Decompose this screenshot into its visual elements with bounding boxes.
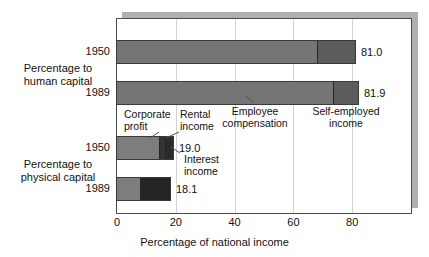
- value-label-human-1950: 81.0: [361, 46, 382, 58]
- xtick-20: 20: [161, 216, 191, 228]
- xtick-0: 0: [102, 216, 132, 228]
- annotation-employee-compensation: Employee compensation: [222, 105, 288, 129]
- segment-self-employed-income: [317, 41, 355, 63]
- annotation-self-employed-income-line1: Self-employed: [310, 105, 382, 117]
- group-label-human-capital: Percentage to human capital: [2, 62, 114, 88]
- ytick-human-1950: 1950: [76, 45, 110, 57]
- plot-inner: Corporate profit Rental income Interest …: [117, 19, 411, 213]
- value-label-physical-1950: 19.0: [179, 142, 200, 154]
- ytick-physical-1950: 1950: [76, 141, 110, 153]
- segment-interest-income: [141, 178, 170, 200]
- chart-figure: Corporate profit Rental income Interest …: [0, 0, 429, 257]
- annotation-rental-income-line2: income: [180, 120, 214, 132]
- annotation-rental-income: Rental income: [180, 108, 214, 132]
- group-label-human-capital-line1: Percentage to: [2, 62, 114, 75]
- annotation-interest-income: Interest income: [184, 153, 219, 177]
- x-axis-title: Percentage of national income: [0, 236, 429, 248]
- annotation-self-employed-income-line2: income: [310, 117, 382, 129]
- annotation-employee-compensation-line1: Employee: [222, 105, 288, 117]
- annotation-employee-compensation-line2: compensation: [222, 117, 288, 129]
- group-label-physical-capital: Percentage to physical capital: [2, 158, 114, 184]
- value-label-human-1989: 81.9: [364, 87, 385, 99]
- segment-self-employed-income: [333, 82, 358, 104]
- annotation-rental-income-line1: Rental: [180, 108, 214, 120]
- annotation-interest-income-line1: Interest: [184, 153, 219, 165]
- xtick-60: 60: [278, 216, 308, 228]
- annotation-corporate-profit-line1: Corporate: [124, 108, 171, 120]
- segment-interest-income: [165, 137, 173, 159]
- annotation-interest-income-line2: income: [184, 165, 219, 177]
- plot-area: Corporate profit Rental income Interest …: [116, 18, 412, 214]
- annotation-self-employed-income: Self-employed income: [310, 105, 382, 129]
- bar-human-1989[interactable]: [117, 82, 358, 104]
- segment-corporate-profit: [117, 178, 140, 200]
- annotation-corporate-profit: Corporate profit: [124, 108, 171, 132]
- bar-physical-1950[interactable]: [117, 137, 173, 159]
- xtick-40: 40: [220, 216, 250, 228]
- segment-employee-compensation: [117, 41, 317, 63]
- segment-employee-compensation: [117, 82, 333, 104]
- annotation-corporate-profit-line2: profit: [124, 120, 171, 132]
- group-label-physical-capital-line2: physical capital: [2, 171, 114, 184]
- value-label-physical-1989: 18.1: [176, 183, 197, 195]
- bar-human-1950[interactable]: [117, 41, 355, 63]
- group-label-human-capital-line2: human capital: [2, 75, 114, 88]
- bar-physical-1989[interactable]: [117, 178, 170, 200]
- xtick-80: 80: [337, 216, 367, 228]
- segment-corporate-profit: [117, 137, 159, 159]
- group-label-physical-capital-line1: Percentage to: [2, 158, 114, 171]
